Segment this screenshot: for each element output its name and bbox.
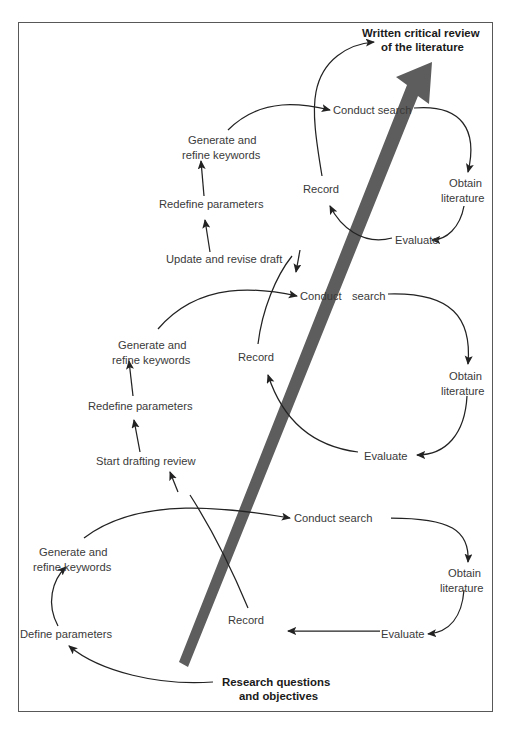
label-evaluate-2: Evaluate xyxy=(364,450,408,462)
label-literature-1: literature xyxy=(440,582,484,594)
label-conduct-search-1: Conduct search xyxy=(294,512,372,524)
label-generate-and-1: Generate and xyxy=(39,546,107,558)
label-evaluate-3: Evaluate xyxy=(395,234,439,246)
label-refine-keywords-3: refine keywords xyxy=(182,149,261,161)
label-start-drafting-review: Start drafting review xyxy=(96,455,196,467)
label-search-2: search xyxy=(352,290,386,302)
start-label-line1: Research questions xyxy=(222,676,330,688)
label-update-and-revise-draft: Update and revise draft xyxy=(166,253,283,265)
label-evaluate-1: Evaluate xyxy=(381,628,425,640)
label-define-parameters: Define parameters xyxy=(20,628,112,640)
label-redefine-parameters-3: Redefine parameters xyxy=(159,198,264,210)
label-literature-2: literature xyxy=(441,385,485,397)
label-refine-keywords-1: refine keywords xyxy=(33,561,112,573)
diagram-canvas: Define parameters Generate and refine ke… xyxy=(0,0,510,734)
label-obtain-3: Obtain xyxy=(449,177,482,189)
label-redefine-parameters-2: Redefine parameters xyxy=(88,400,193,412)
label-literature-3: literature xyxy=(441,192,485,204)
start-label-line2: and objectives xyxy=(239,690,318,702)
label-obtain-1: Obtain xyxy=(448,567,481,579)
end-node: Written critical review of the literatur… xyxy=(362,27,480,53)
label-refine-keywords-2: refine keywords xyxy=(112,354,191,366)
label-conduct-search-3: Conduct search xyxy=(333,104,411,116)
label-generate-and-2: Generate and xyxy=(118,339,186,351)
label-record-2: Record xyxy=(238,351,274,363)
label-conduct-2: Conduct xyxy=(300,290,343,302)
label-obtain-2: Obtain xyxy=(449,370,482,382)
label-record-1: Record xyxy=(228,614,264,626)
literature-review-spiral-diagram: Define parameters Generate and refine ke… xyxy=(0,0,510,734)
end-label-line2: of the literature xyxy=(381,41,464,53)
cycle-1-connectors xyxy=(52,495,469,683)
label-record-3: Record xyxy=(303,183,339,195)
cycle-1-labels: Define parameters Generate and refine ke… xyxy=(20,512,484,640)
label-generate-and-3: Generate and xyxy=(188,134,256,146)
start-node: Research questions and objectives xyxy=(222,676,330,702)
end-label-line1: Written critical review xyxy=(362,27,480,39)
cycle-2-labels: Start drafting review Redefine parameter… xyxy=(88,290,485,467)
